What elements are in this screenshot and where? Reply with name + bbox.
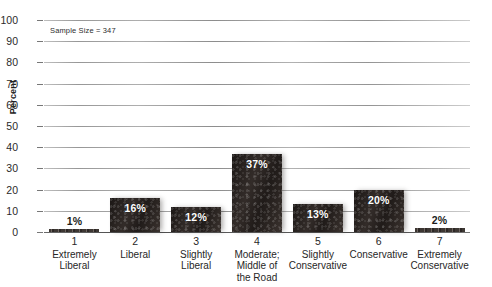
x-tick-number: 5 [287, 236, 348, 248]
y-tick-label: 20 [0, 185, 18, 196]
x-tick-category-line: Conservative [409, 260, 470, 272]
bar-3: 12% [171, 207, 221, 232]
x-tick-label-3: 3SlightlyLiberal [166, 236, 227, 272]
y-tick-mark [37, 62, 43, 63]
gridline [44, 84, 470, 85]
x-tick-category-line: Liberal [166, 260, 227, 272]
gridline [44, 147, 470, 148]
axis-baseline [44, 232, 470, 233]
gridline [44, 62, 470, 63]
x-tick-label-2: 2Liberal [105, 236, 166, 260]
x-tick-label-4: 4Moderate;Middle ofthe Road [227, 236, 288, 283]
bar-2: 16% [110, 198, 160, 232]
x-tick-number: 4 [227, 236, 288, 248]
y-tick-mark [37, 20, 43, 21]
x-tick-category-line: Extremely [44, 249, 105, 261]
x-tick-category-line: Moderate; [227, 249, 288, 261]
x-tick-category-line: Slightly [166, 249, 227, 261]
gridline [44, 20, 470, 21]
x-tick-category-line: Conservative [348, 249, 409, 261]
bar-value-label: 16% [110, 202, 160, 214]
bar-value-label: 12% [171, 211, 221, 223]
gridline [44, 105, 470, 106]
x-tick-number: 2 [105, 236, 166, 248]
bar-value-label: 1% [49, 215, 99, 227]
bar-chart: Percent 10090807060504030201001%16%12%37… [0, 0, 492, 287]
x-tick-number: 3 [166, 236, 227, 248]
x-tick-label-6: 6Conservative [348, 236, 409, 260]
y-tick-label: 100 [0, 15, 18, 26]
gridline [44, 41, 470, 42]
x-tick-number: 1 [44, 236, 105, 248]
y-tick-mark [37, 147, 43, 148]
bar-value-label: 13% [293, 208, 343, 220]
y-tick-label: 90 [0, 36, 18, 47]
gridline [44, 126, 470, 127]
y-tick-label: 40 [0, 142, 18, 153]
bar-value-label: 37% [232, 158, 282, 170]
y-tick-mark [37, 232, 43, 233]
y-tick-label: 70 [0, 79, 18, 90]
y-tick-mark [37, 84, 43, 85]
bar-1: 1% [49, 229, 99, 232]
bar-6: 20% [354, 190, 404, 232]
y-tick-mark [37, 168, 43, 169]
x-tick-category-line: Middle of [227, 260, 288, 272]
y-tick-mark [37, 105, 43, 106]
y-tick-label: 10 [0, 206, 18, 217]
y-tick-mark [37, 211, 43, 212]
y-tick-label: 0 [0, 227, 18, 238]
x-tick-label-5: 5SlightlyConservative [287, 236, 348, 272]
plot-area: 10090807060504030201001%16%12%37%13%20%2… [44, 20, 470, 232]
y-tick-mark [37, 41, 43, 42]
y-tick-label: 30 [0, 163, 18, 174]
y-tick-mark [37, 126, 43, 127]
y-tick-label: 50 [0, 121, 18, 132]
x-tick-label-1: 1ExtremelyLiberal [44, 236, 105, 272]
bar-5: 13% [293, 204, 343, 232]
x-tick-category-line: Conservative [287, 260, 348, 272]
bar-value-label: 20% [354, 194, 404, 206]
y-tick-label: 80 [0, 57, 18, 68]
bar-value-label: 2% [415, 214, 465, 226]
x-tick-category-line: the Road [227, 272, 288, 284]
x-tick-number: 7 [409, 236, 470, 248]
bar-7: 2% [415, 228, 465, 232]
bar-4: 37% [232, 154, 282, 232]
x-tick-category-line: Extremely [409, 249, 470, 261]
y-tick-mark [37, 190, 43, 191]
x-tick-category-line: Slightly [287, 249, 348, 261]
x-tick-category-line: Liberal [44, 260, 105, 272]
sample-size-annotation: Sample Size = 347 [50, 26, 116, 35]
x-tick-number: 6 [348, 236, 409, 248]
x-tick-category-line: Liberal [105, 249, 166, 261]
x-tick-label-7: 7ExtremelyConservative [409, 236, 470, 272]
y-tick-label: 60 [0, 100, 18, 111]
